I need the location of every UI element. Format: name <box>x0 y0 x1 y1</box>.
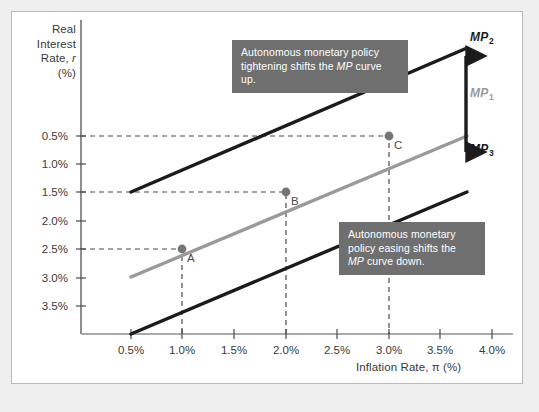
x-tick-label-3.0: 3.0% <box>367 344 411 356</box>
curve-label-mp3-subscript: 3 <box>489 148 494 158</box>
figure-container: Real Interest Rate, r (%) Inflation Rate… <box>0 0 539 412</box>
y-tick-label-1.0: 1.0% <box>26 158 68 170</box>
point-label-b: B <box>291 195 299 207</box>
curve-label-mp2-subscript: 2 <box>489 36 494 46</box>
y-axis-title-line-3: Rate, r <box>18 51 76 66</box>
x-tick-label-1.5: 1.5% <box>212 344 256 356</box>
data-point-a <box>178 245 187 254</box>
curve-label-mp1: MP1 <box>470 86 493 100</box>
callout-tightening-mp: MP <box>337 60 353 72</box>
y-axis-title-line-2: Interest <box>18 37 76 52</box>
y-tick-label-3.0: 3.0% <box>26 272 68 284</box>
y-tick-label-3.5: 3.5% <box>26 300 68 312</box>
curve-label-mp1-subscript: 1 <box>489 92 494 102</box>
y-axis-title-line-1: Real <box>18 22 76 37</box>
callout-tightening-prefix: tightening shifts the <box>241 60 337 72</box>
y-tick-label-1.5: 1.5% <box>26 186 68 198</box>
x-tick-label-2.0: 2.0% <box>264 344 308 356</box>
callout-tightening-line-1: Autonomous monetary policy <box>241 46 399 60</box>
x-tick-label-1.0: 1.0% <box>160 344 204 356</box>
point-label-c: C <box>394 139 402 151</box>
y-tick-label-0.5: 0.5% <box>26 130 68 142</box>
curve-label-mp3: MP3 <box>470 142 493 156</box>
callout-easing-suffix: curve down. <box>364 255 425 267</box>
x-tick-label-0.5: 0.5% <box>109 344 153 356</box>
x-tick-label-4.0: 4.0% <box>470 344 514 356</box>
data-point-b <box>282 188 291 197</box>
callout-easing-line-1: Autonomous monetary <box>348 228 476 242</box>
y-axis-title-line-4: (%) <box>18 66 76 81</box>
callout-tightening-line-2: tightening shifts the MP curve up. <box>241 60 399 87</box>
point-label-a: A <box>187 252 195 264</box>
callout-easing: Autonomous monetary policy easing shifts… <box>339 222 485 275</box>
y-tick-label-2.5: 2.5% <box>26 243 68 255</box>
callout-tightening: Autonomous monetary policy tightening sh… <box>232 40 408 93</box>
callout-easing-line-3: MP curve down. <box>348 255 476 269</box>
curve-label-mp2: MP2 <box>470 30 493 44</box>
x-axis-title: Inflation Rate, π (%) <box>356 360 506 375</box>
x-tick-label-2.5: 2.5% <box>315 344 359 356</box>
data-point-c <box>385 132 394 141</box>
y-axis-title: Real Interest Rate, r (%) <box>18 22 76 80</box>
callout-easing-line-2: policy easing shifts the <box>348 242 476 256</box>
x-tick-label-3.5: 3.5% <box>418 344 462 356</box>
y-tick-label-2.0: 2.0% <box>26 215 68 227</box>
callout-easing-mp: MP <box>348 255 364 267</box>
